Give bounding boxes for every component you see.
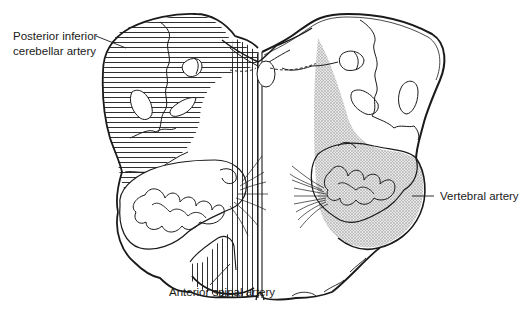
label-posterior-inferior-cerebellar-artery: Posterior inferior cerebellar artery	[13, 29, 97, 59]
diagram-stage: Posterior inferior cerebellar artery Ver…	[0, 0, 521, 309]
right-ventral-sulci	[292, 258, 366, 296]
label-anterior-spinal-artery: Anterior spinal artery	[169, 285, 275, 300]
label-vertebral-artery: Vertebral artery	[440, 189, 519, 204]
label-pica-line1: Posterior inferior	[13, 29, 97, 44]
label-pica-line2: cerebellar artery	[13, 44, 97, 59]
right-ventral-contour	[264, 248, 380, 300]
